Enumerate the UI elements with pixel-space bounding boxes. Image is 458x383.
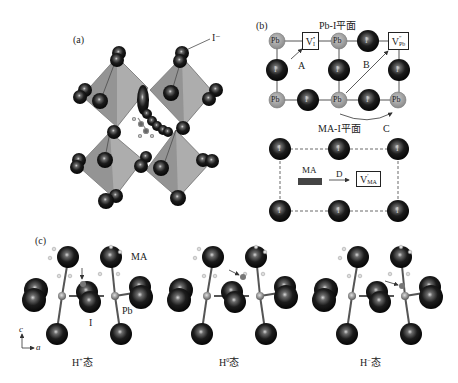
panel-b-label: (b) bbox=[256, 21, 268, 31]
atom-i: I bbox=[305, 96, 308, 104]
atom-pb: Pb bbox=[333, 37, 341, 45]
axis-a-label: a bbox=[36, 343, 41, 352]
axis-c-label: c bbox=[19, 325, 23, 334]
vacancy-site: I bbox=[313, 41, 315, 47]
ion-leader-line bbox=[184, 39, 210, 51]
perovskite-figure bbox=[0, 0, 458, 383]
atom-i: I bbox=[278, 145, 281, 153]
ma-block bbox=[298, 178, 322, 185]
atom-pb: Pb bbox=[271, 96, 279, 104]
path-b-label: B bbox=[363, 60, 370, 70]
state-label-h-zero: H0态 bbox=[219, 357, 239, 368]
state-suffix: 态 bbox=[83, 357, 93, 368]
vacancy-site: MA bbox=[367, 179, 377, 185]
vacancy-base: V bbox=[360, 174, 367, 185]
atom-i: I bbox=[337, 207, 340, 215]
panel-a-label: (a) bbox=[73, 35, 84, 45]
ma-label: MA bbox=[302, 166, 317, 175]
atom-pb: Pb bbox=[333, 96, 341, 104]
atom-i: I bbox=[365, 37, 368, 45]
axis-indicator bbox=[22, 334, 34, 348]
iodide-vacancy-box: V•I bbox=[302, 32, 319, 50]
atom-i: I bbox=[396, 207, 399, 215]
vacancy-base: V bbox=[306, 36, 313, 47]
path-d-label: D bbox=[336, 170, 343, 179]
atom-i: I bbox=[396, 145, 399, 153]
ma-vacancy-box: V′MA bbox=[356, 171, 381, 187]
state-label-h-minus: H−态 bbox=[360, 357, 381, 368]
atom-i: I bbox=[278, 207, 281, 215]
atom-i: I bbox=[396, 66, 399, 74]
state-suffix: 态 bbox=[229, 357, 239, 368]
panel-c-label: (c) bbox=[35, 236, 46, 246]
vacancy-base: V bbox=[392, 36, 399, 47]
lead-label: Pb bbox=[122, 306, 133, 316]
iodide-ion-label: I⁻ bbox=[212, 33, 221, 43]
atom-i: I bbox=[274, 66, 277, 74]
atom-i: I bbox=[337, 145, 340, 153]
path-a-label: A bbox=[298, 61, 305, 71]
lead-vacancy-box: V″Pb bbox=[388, 32, 409, 50]
ma-molecule-label: MA bbox=[131, 252, 147, 262]
pbi-plane-title: Pb-I平面 bbox=[319, 21, 356, 31]
atom-pb: Pb bbox=[271, 37, 279, 45]
state-label-h-plus: H+态 bbox=[72, 357, 93, 368]
vacancy-site: Pb bbox=[399, 41, 405, 47]
mai-plane-title: MA-I平面 bbox=[318, 124, 361, 134]
atom-i: I bbox=[336, 66, 339, 74]
state-suffix: 态 bbox=[371, 357, 381, 368]
path-c-label: C bbox=[383, 124, 390, 134]
panel-a-structure bbox=[70, 39, 223, 209]
panel-c-structures bbox=[22, 245, 443, 348]
atom-i: I bbox=[366, 96, 369, 104]
atom-pb: Pb bbox=[392, 96, 400, 104]
iodide-label: I bbox=[89, 318, 92, 328]
iodide-atoms bbox=[70, 46, 223, 209]
